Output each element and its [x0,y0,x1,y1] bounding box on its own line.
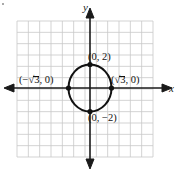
point-label-bottom: (0, −2) [88,113,117,124]
point-label-right: (√3, 0) [111,75,140,86]
y-axis-arrow-down [86,159,94,169]
left-label-prefix: (− [19,74,28,85]
x-axis-arrow-left [4,84,14,92]
point-right [109,85,114,90]
x-axis-label: x [169,83,174,94]
right-label-suffix: , 0) [126,74,140,85]
right-label-radical: √3 [115,75,126,86]
radical-overbar [119,76,125,77]
left-label-suffix: , 0) [39,74,53,85]
graph-figure: x y (0, 2) (0, −2) (−√3, 0) (√3, 0) [0,0,179,171]
point-label-top: (0, 2) [88,52,111,63]
radical-overbar [33,76,39,77]
point-left [66,85,71,90]
point-top [87,62,92,67]
grid-lines [17,21,153,157]
y-axis-label: y [83,2,88,13]
point-label-left: (−√3, 0) [19,75,53,86]
coordinate-plane [0,0,179,171]
left-label-radical: √3 [28,75,39,86]
